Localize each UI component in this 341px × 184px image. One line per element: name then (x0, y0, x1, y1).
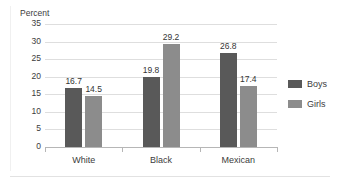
gridline (45, 24, 277, 25)
plot-area: 16.714.519.829.226.817.4 (45, 24, 277, 147)
x-axis-line (45, 147, 277, 148)
bar-chart-figure: Percent 05101520253035 16.714.519.829.22… (0, 0, 341, 184)
figure-left-border (10, 6, 11, 171)
x-axis-category-label-white: White (45, 155, 122, 166)
bar-value-label: 26.8 (213, 42, 244, 51)
figure-bottom-border (10, 176, 330, 177)
bar-white-boys (65, 88, 82, 147)
y-axis-tick-label: 5 (36, 124, 41, 133)
x-axis-tick (122, 147, 123, 152)
legend-swatch-boys-icon (288, 80, 302, 88)
legend-item-girls[interactable]: Girls (288, 97, 340, 111)
bar-value-label: 17.4 (233, 75, 264, 84)
legend-item-boys[interactable]: Boys (288, 77, 340, 91)
x-axis-category-label-black: Black (122, 155, 199, 166)
x-axis-tick (45, 147, 46, 152)
legend-label-girls: Girls (307, 99, 326, 109)
bar-mexican-boys (220, 53, 237, 147)
bar-white-girls (85, 96, 102, 147)
y-axis-tick-label: 10 (32, 107, 41, 116)
x-axis-tick (200, 147, 201, 152)
legend-swatch-girls-icon (288, 100, 302, 108)
chart-legend: Boys Girls (288, 77, 340, 117)
bar-value-label: 14.5 (78, 85, 109, 94)
y-axis-tick-labels: 05101520253035 (18, 0, 41, 184)
y-axis-tick-label: 35 (32, 19, 41, 28)
bar-mexican-girls (240, 86, 257, 147)
y-axis-tick-label: 15 (32, 89, 41, 98)
y-axis-tick-label: 30 (32, 37, 41, 46)
bar-value-label: 29.2 (156, 33, 187, 42)
y-axis-tick-label: 25 (32, 54, 41, 63)
legend-label-boys: Boys (307, 79, 327, 89)
x-axis-tick (277, 147, 278, 152)
bar-black-girls (163, 44, 180, 147)
gridline (45, 59, 277, 60)
bar-black-boys (143, 77, 160, 147)
y-axis-tick-label: 0 (36, 142, 41, 151)
y-axis-tick-label: 20 (32, 72, 41, 81)
x-axis-category-label-mexican: Mexican (200, 155, 277, 166)
